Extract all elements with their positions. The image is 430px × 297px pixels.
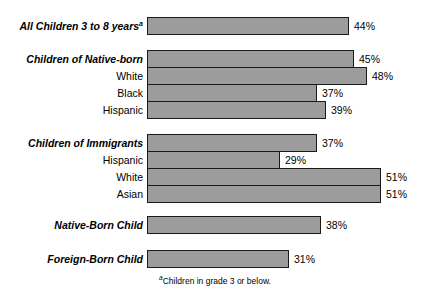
bar	[147, 168, 381, 186]
bar-category-label: White	[116, 168, 147, 186]
bar-value-label: 38%	[321, 216, 347, 234]
bar-category-label: Native-Born Child	[54, 216, 147, 234]
bar-category-label: Foreign-Born Child	[47, 250, 147, 268]
bar-value-label: 39%	[326, 101, 352, 119]
bar	[147, 17, 349, 35]
chart-row: Hispanic29%	[0, 151, 430, 169]
bar	[147, 151, 280, 169]
bar-value-label: 29%	[280, 151, 306, 169]
bar-value-label: 31%	[289, 250, 315, 268]
label-footnote-marker: a	[139, 20, 143, 27]
bar-value-label: 51%	[381, 168, 407, 186]
bar	[147, 250, 289, 268]
bar	[147, 50, 354, 68]
bar	[147, 101, 326, 119]
bar-category-label: Hispanic	[103, 101, 147, 119]
bar-chart: All Children 3 to 8 yearsa44%Children of…	[0, 0, 430, 297]
chart-row: Children of Immigrants37%	[0, 134, 430, 152]
chart-row: Native-Born Child38%	[0, 216, 430, 234]
bar	[147, 134, 317, 152]
chart-row: White51%	[0, 168, 430, 186]
bar	[147, 84, 317, 102]
bar-value-label: 45%	[354, 50, 380, 68]
bar-category-label: Asian	[117, 185, 147, 203]
bar-category-label: Black	[117, 84, 147, 102]
bar-category-label: Children of Native-born	[26, 50, 147, 68]
chart-row: All Children 3 to 8 yearsa44%	[0, 17, 430, 35]
bar-category-label: Children of Immigrants	[28, 134, 147, 152]
chart-row: Hispanic39%	[0, 101, 430, 119]
bar-category-label: Hispanic	[103, 151, 147, 169]
chart-row: Children of Native-born45%	[0, 50, 430, 68]
chart-row: Asian51%	[0, 185, 430, 203]
bar-category-label: White	[116, 67, 147, 85]
bar	[147, 216, 321, 234]
bar	[147, 67, 367, 85]
bar-value-label: 44%	[349, 17, 375, 35]
bar-value-label: 37%	[317, 134, 343, 152]
bar-category-label: All Children 3 to 8 yearsa	[19, 17, 147, 35]
footnote-text: Children in grade 3 or below.	[163, 276, 271, 286]
bar-value-label: 51%	[381, 185, 407, 203]
bar-value-label: 37%	[317, 84, 343, 102]
chart-row: Foreign-Born Child31%	[0, 250, 430, 268]
chart-row: Black37%	[0, 84, 430, 102]
bar-value-label: 48%	[367, 67, 393, 85]
chart-footnote: aChildren in grade 3 or below.	[0, 276, 430, 286]
chart-row: White48%	[0, 67, 430, 85]
bar	[147, 185, 381, 203]
